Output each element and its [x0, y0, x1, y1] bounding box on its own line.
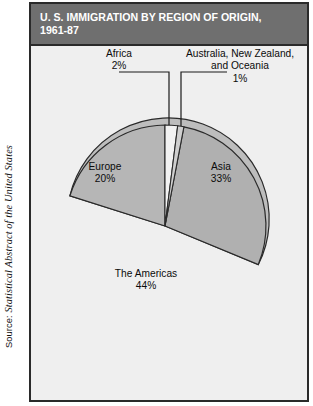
africa-name: Africa [106, 48, 132, 59]
chart-title-bar: U. S. IMMIGRATION BY REGION OF ORIGIN, 1… [31, 4, 307, 46]
africa-leader-line [119, 72, 169, 125]
oceania-percent: 1% [173, 73, 307, 85]
pie-plot-area: Africa 2% Australia, New Zealand, and Oc… [31, 46, 307, 400]
americas-percent: 44% [87, 280, 205, 292]
europe-percent: 20% [67, 173, 143, 185]
chart-title-line-2: 1961-87 [40, 24, 307, 37]
immigration-pie-figure: Source: Statistical Abstract of the Unit… [0, 0, 313, 406]
americas-name: The Americas [115, 268, 177, 279]
pie-chart-svg [31, 46, 307, 400]
pie-label-europe: Europe 20% [67, 161, 143, 186]
oceania-name-line-2: and Oceania [173, 60, 307, 72]
europe-name: Europe [89, 161, 122, 172]
asia-percent: 33% [183, 173, 259, 185]
pie-label-africa: Africa 2% [77, 48, 161, 73]
source-label: Source: [4, 313, 14, 348]
chart-panel: U. S. IMMIGRATION BY REGION OF ORIGIN, 1… [29, 2, 309, 402]
africa-percent: 2% [77, 60, 161, 72]
source-credit: Source: Statistical Abstract of the Unit… [0, 0, 30, 406]
pie-label-asia: Asia 33% [183, 161, 259, 186]
source-publication: Statistical Abstract of the United State… [3, 145, 14, 313]
oceania-name-line-1: Australia, New Zealand, [186, 48, 294, 59]
chart-title-line-1: U. S. IMMIGRATION BY REGION OF ORIGIN, [40, 11, 307, 24]
pie-label-oceania: Australia, New Zealand, and Oceania 1% [173, 48, 307, 85]
pie-label-the-americas: The Americas 44% [87, 268, 205, 293]
asia-name: Asia [211, 161, 231, 172]
